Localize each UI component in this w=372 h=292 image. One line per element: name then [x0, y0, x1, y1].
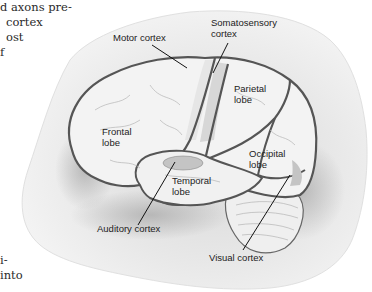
label-frontal-lobe: Frontal lobe: [102, 126, 132, 148]
label-parietal-lobe: Parietal lobe: [234, 83, 266, 105]
label-occipital-lobe: Occipital lobe: [249, 148, 285, 170]
brain-illustration: [0, 0, 372, 292]
label-motor-cortex: Motor cortex: [113, 32, 166, 43]
label-temporal-lobe: Temporal lobe: [172, 175, 211, 197]
auditory-cortex-region: [163, 156, 203, 170]
label-auditory-cortex: Auditory cortex: [97, 223, 160, 234]
label-visual-cortex: Visual cortex: [209, 252, 263, 263]
label-somatosensory-cortex: Somatosensory cortex: [211, 17, 277, 39]
